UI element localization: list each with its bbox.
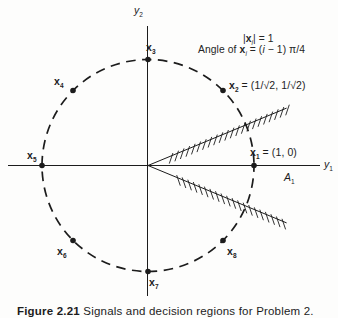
signal-point-label-x3: x3: [146, 41, 156, 56]
hatch-stroke: [232, 198, 236, 209]
text-segment: 2: [139, 11, 143, 18]
hatch-stroke: [276, 217, 280, 228]
signal-point-label-x6: x6: [57, 245, 67, 260]
text-segment: Signals and decision regions for Problem…: [80, 305, 314, 317]
signal-point-dot-x4: [70, 88, 76, 94]
text-segment: 6: [63, 252, 67, 259]
text-segment: | = 1: [253, 33, 274, 44]
text-segment: = (1/√2, 1/√2): [239, 79, 306, 91]
signal-point-dot-x3: [145, 57, 151, 63]
hatch-stroke: [269, 112, 273, 123]
hatch-stroke: [180, 148, 184, 159]
hatch-stroke: [214, 135, 218, 146]
text-segment: 5: [33, 156, 37, 163]
text-segment: 3: [152, 48, 156, 55]
hatch-stroke: [227, 196, 231, 207]
hatch-stroke: [225, 130, 229, 141]
signal-point-dot-x6: [70, 238, 76, 244]
hatch-stroke: [264, 114, 268, 125]
hatch-stroke: [241, 123, 245, 134]
signal-point-dot-x1: [251, 163, 257, 169]
hatch-stroke: [271, 214, 275, 225]
hatch-stroke: [280, 107, 284, 118]
annotation-angle: Angle of xi = (i − 1) π/4: [198, 44, 305, 57]
hatch-stroke: [199, 184, 203, 195]
hatch-stroke: [169, 153, 173, 164]
hatch-stroke: [249, 205, 253, 216]
signal-point-label-x5: x5: [27, 149, 37, 164]
lower-boundary-hatching: [177, 175, 286, 229]
y1-axis-label: y1: [324, 158, 333, 173]
text-segment: − 1) π/4: [265, 44, 305, 55]
hatch-stroke: [203, 139, 207, 150]
hatch-stroke: [230, 128, 234, 139]
signal-point-label-x2: x2 = (1/√2, 1/√2): [229, 79, 306, 94]
hatch-stroke: [260, 210, 264, 221]
text-segment: Angle of: [198, 44, 240, 55]
hatch-stroke: [204, 187, 208, 198]
hatch-stroke: [219, 132, 223, 143]
signal-point-dot-x8: [220, 238, 226, 244]
hatch-stroke: [197, 142, 201, 153]
hatch-stroke: [282, 219, 286, 230]
hatch-stroke: [254, 207, 258, 218]
hatch-stroke: [286, 105, 290, 116]
signal-point-dot-x7: [145, 269, 151, 275]
text-segment: 1: [291, 178, 295, 185]
hatch-stroke: [210, 189, 214, 200]
hatch-stroke: [182, 177, 186, 188]
hatch-stroke: [177, 175, 181, 186]
hatch-stroke: [236, 125, 240, 136]
hatch-stroke: [221, 194, 225, 205]
text-segment: Figure 2.21: [17, 305, 80, 317]
figure-caption: Figure 2.21 Signals and decision regions…: [17, 305, 314, 318]
hatch-stroke: [188, 180, 192, 191]
hatch-stroke: [275, 109, 279, 120]
hatch-stroke: [253, 119, 257, 130]
hatch-stroke: [216, 191, 220, 202]
text-segment: = (: [247, 44, 263, 55]
signal-point-dot-x5: [39, 163, 45, 169]
hatch-stroke: [208, 137, 212, 148]
hatch-stroke: [265, 212, 269, 223]
hatch-stroke: [186, 146, 190, 157]
hatch-stroke: [192, 144, 196, 155]
signal-point-label-x8: x8: [227, 245, 237, 260]
text-segment: 7: [155, 283, 159, 290]
text-segment: 1: [329, 165, 333, 172]
signal-point-label-x1: x1 = (1, 0): [250, 146, 297, 161]
signal-point-dot-x2: [220, 88, 226, 94]
decision-region-a1-label: A1: [284, 171, 295, 186]
hatch-stroke: [258, 116, 262, 127]
hatch-stroke: [175, 151, 179, 162]
hatch-stroke: [238, 200, 242, 211]
text-segment: 4: [60, 82, 64, 89]
signal-point-label-x7: x7: [149, 276, 159, 291]
text-segment: = (1, 0): [260, 146, 297, 158]
signal-point-label-x4: x4: [54, 75, 64, 90]
text-segment: 8: [233, 252, 237, 259]
hatch-stroke: [193, 182, 197, 193]
y2-axis-label: y2: [134, 4, 143, 19]
